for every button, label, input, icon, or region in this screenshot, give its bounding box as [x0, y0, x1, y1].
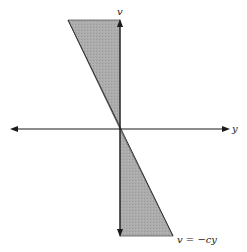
diagram-canvas: y v v = −cy: [0, 0, 247, 252]
vertical-axis-label: v: [117, 6, 123, 17]
left-arrowhead-icon: [10, 126, 18, 132]
horizontal-axis-label: y: [231, 123, 238, 134]
line-equation-label: v = −cy: [177, 234, 217, 245]
right-arrowhead-icon: [222, 126, 230, 132]
